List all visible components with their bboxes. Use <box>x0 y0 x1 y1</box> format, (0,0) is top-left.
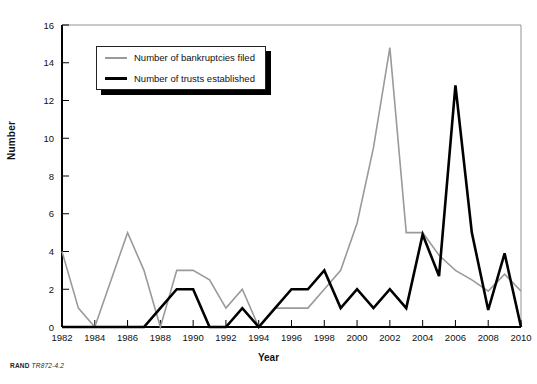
x-tick-label: 2004 <box>412 332 433 343</box>
legend-label-bankruptcies: Number of bankruptcies filed <box>134 52 255 63</box>
credit-id: TR872-4.2 <box>32 362 65 369</box>
y-tick-label: 0 <box>49 322 54 333</box>
y-tick-label: 12 <box>43 95 54 106</box>
x-tick-label: 1998 <box>314 332 335 343</box>
legend-item-bankruptcies: Number of bankruptcies filed <box>97 47 265 68</box>
legend-line-swatch-black <box>105 77 127 80</box>
x-tick-label: 1990 <box>183 332 204 343</box>
credit-prefix: RAND <box>10 362 30 369</box>
series-line-number-of-trusts-established <box>62 85 521 327</box>
y-tick-label: 16 <box>43 20 54 31</box>
x-tick-label: 1984 <box>84 332 105 343</box>
x-tick-label: 1982 <box>51 332 72 343</box>
y-tick-label: 2 <box>49 284 54 295</box>
legend-line-swatch-gray <box>105 57 127 59</box>
x-tick-label: 2010 <box>510 332 531 343</box>
x-tick-label: 1994 <box>248 332 269 343</box>
x-tick-label: 1986 <box>117 332 138 343</box>
legend-label-trusts: Number of trusts established <box>134 73 255 84</box>
y-tick-label: 14 <box>43 57 54 68</box>
figure-credit: RAND TR872-4.2 <box>10 362 64 369</box>
x-tick-label: 2006 <box>445 332 466 343</box>
y-tick-label: 8 <box>49 171 54 182</box>
chart-legend: Number of bankruptcies filed Number of t… <box>96 46 266 90</box>
x-tick-label: 1996 <box>281 332 302 343</box>
x-tick-label: 2000 <box>347 332 368 343</box>
x-tick-label: 1992 <box>215 332 236 343</box>
x-tick-label: 2002 <box>379 332 400 343</box>
x-tick-label: 1988 <box>150 332 171 343</box>
y-tick-label: 10 <box>43 133 54 144</box>
figure-container: Number Year 0246810121416198219841986198… <box>0 0 537 384</box>
legend-item-trusts: Number of trusts established <box>97 68 265 89</box>
y-tick-label: 6 <box>49 208 54 219</box>
y-tick-label: 4 <box>49 246 54 257</box>
x-tick-label: 2008 <box>478 332 499 343</box>
